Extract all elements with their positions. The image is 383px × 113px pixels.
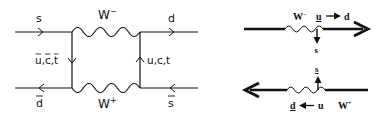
arrow-up-icon [315,76,322,83]
label-d-top: d [344,11,350,22]
vertex-diagrams: W− u d s s d u W+ [244,11,368,111]
w-minus-boson-wave [72,28,140,37]
label-w-plus: W+ [98,96,117,111]
label-s-in: s [36,12,42,25]
label-d-bottom: d [290,100,296,111]
w-plus-boson-wave [72,84,140,93]
box-diagram: s d d s W− W+ u,c,t u,c,t [15,7,198,111]
label-quarks: u,c,t [147,54,170,66]
label-sbar: s [168,97,174,110]
label-d-out: d [168,12,175,25]
label-u-bottom: u [318,100,324,111]
arrow-right-small-icon [334,13,341,20]
label-s-emitted: s [315,45,319,55]
arrow-left-small-icon [299,102,306,109]
feynman-diagrams: s d d s W− W+ u,c,t u,c,t W− u d s [0,0,383,113]
label-w-minus: W− [98,7,117,22]
label-antiquarks: u,c,t [35,54,58,66]
arrow-down-icon [314,37,321,44]
label-w-plus-right: W+ [338,100,352,111]
label-dbar: d [36,97,43,110]
label-u-top: u [316,11,322,22]
label-s-absorbed: s [315,64,319,74]
label-w-minus-right: W− [293,11,307,22]
w-plus-wave-bottom [287,87,325,93]
